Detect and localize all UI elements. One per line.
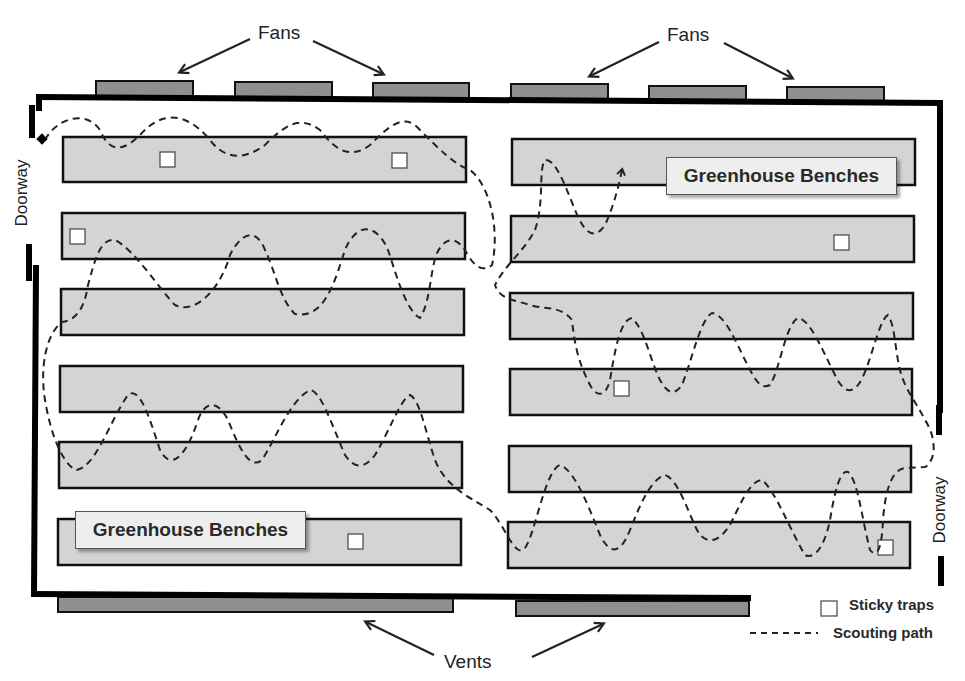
doorway-label-right: Doorway: [930, 476, 950, 543]
arrow-fans-right-2: [724, 43, 792, 78]
doorway-left-jamb-top: [29, 105, 35, 138]
doorway-right-jamb-top: [936, 405, 942, 435]
sticky-trap-icon: [348, 534, 363, 549]
legend-scouting-path-label: Scouting path: [833, 624, 933, 641]
fan-3: [373, 83, 469, 98]
sticky-trap-icon: [160, 152, 175, 167]
doorway-left-jamb-bottom: [26, 244, 32, 281]
vent-2: [516, 601, 749, 616]
arrow-fans-right-1: [590, 42, 659, 76]
doorway-label-left: Doorway: [12, 159, 32, 226]
fans-label-right: Fans: [667, 24, 709, 46]
arrow-vents-right: [532, 624, 603, 657]
wall-left-lower: [34, 268, 36, 594]
arrow-fans-left-2: [313, 41, 383, 74]
vent-1: [58, 597, 453, 612]
sticky-trap-icon: [392, 153, 407, 168]
legend-trap-icon: [821, 601, 837, 616]
greenhouse-benches-callout-bottom: Greenhouse Benches: [75, 511, 306, 549]
fan-4: [511, 84, 608, 99]
bench-right-4: [510, 369, 912, 415]
legend: [750, 601, 837, 633]
vents-label: Vents: [444, 651, 492, 673]
benches-left-group: [58, 137, 466, 565]
fan-1: [96, 81, 193, 96]
doorway-right-jamb-bottom: [938, 556, 944, 586]
bench-right-2: [511, 216, 914, 262]
entry-marker-icon: [36, 133, 47, 144]
bench-left-2: [62, 213, 465, 259]
fan-2: [235, 82, 332, 97]
arrow-vents-left: [366, 622, 434, 655]
bench-right-3: [510, 293, 913, 339]
greenhouse-layout-diagram: [0, 0, 965, 681]
bench-left-5: [59, 442, 462, 488]
bench-left-4: [60, 366, 463, 412]
bench-right-5: [509, 446, 911, 492]
wall-bottom: [34, 594, 748, 598]
sticky-trap-icon: [834, 235, 849, 250]
arrow-fans-left-1: [180, 39, 250, 72]
sticky-trap-icon: [614, 381, 629, 396]
fans-label-left: Fans: [258, 22, 300, 44]
legend-sticky-traps-label: Sticky traps: [849, 596, 934, 613]
benches-right-group: [508, 139, 915, 568]
greenhouse-benches-callout-top: Greenhouse Benches: [666, 157, 897, 195]
sticky-trap-icon: [70, 229, 85, 244]
bench-right-6: [508, 522, 910, 568]
